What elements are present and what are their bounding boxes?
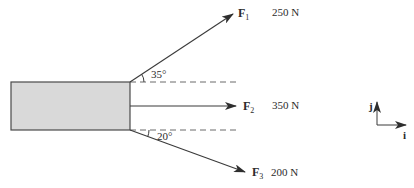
angle-label-f1: 35°	[151, 68, 166, 80]
force-label-f3: F3	[252, 165, 263, 181]
angle-arc-35	[142, 74, 145, 82]
magnitude-f1: 250 N	[272, 6, 299, 18]
force-arrow-f1	[130, 14, 233, 82]
force-label-f2: F2	[243, 99, 254, 115]
force-arrow-f3	[130, 130, 245, 172]
angle-arc-20	[148, 130, 149, 137]
axis-j-label: j	[368, 100, 373, 112]
axis-i-label: i	[403, 129, 406, 141]
magnitude-f3: 200 N	[271, 166, 298, 178]
magnitude-f2: 350 N	[272, 99, 299, 111]
force-diagram: 35° 20° F1 250 N F2 350 N F3 200 N j i	[0, 0, 414, 188]
angle-label-f3: 20°	[157, 130, 172, 142]
block	[11, 82, 130, 130]
force-label-f1: F1	[238, 6, 249, 22]
